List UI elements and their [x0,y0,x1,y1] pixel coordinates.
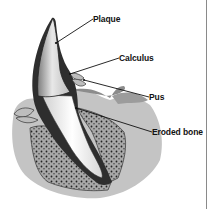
label-eroded-bone: Eroded bone [152,127,203,137]
tooth-diagram: Plaque Calculus Pus Eroded bone [0,0,209,209]
tooth-crown [38,18,70,97]
label-pus: Pus [149,92,164,102]
tooth-illustration [0,0,209,209]
right-border-line [206,0,207,209]
label-calculus: Calculus [119,53,154,63]
label-plaque: Plaque [93,14,120,24]
